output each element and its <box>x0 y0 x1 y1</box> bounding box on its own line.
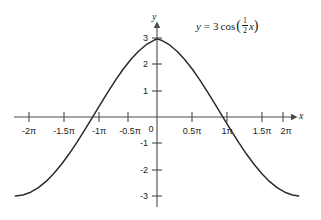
y-tick-label--3: -3 <box>131 191 148 201</box>
cosine-plot-svg <box>0 0 321 220</box>
x-tick-label-1.5pi: 1.5π <box>253 126 272 136</box>
x-tick-label--0.5pi: -0.5π <box>119 126 141 136</box>
y-tick-label-3: 3 <box>131 33 148 43</box>
equation-amplitude: 3 <box>213 20 219 32</box>
fraction-denominator: 2 <box>242 25 248 35</box>
y-tick-label-2: 2 <box>131 59 148 69</box>
equation-annotation: y = 3 cos ( 1 2 x ) <box>196 16 259 35</box>
x-tick-label-0.5pi: 0.5π <box>183 126 202 136</box>
y-tick-label--1: -1 <box>131 138 148 148</box>
x-tick-label--1.5pi: -1.5π <box>53 126 75 136</box>
y-tick-label-1: 1 <box>131 86 148 96</box>
trig-graph-figure: -2π -1.5π -1π -0.5π 0 0.5π 1π 1.5π 2π 3 … <box>0 0 321 220</box>
x-tick-label-2pi: 2π <box>280 126 291 136</box>
origin-label: 0 <box>148 124 153 134</box>
fraction-numerator: 1 <box>242 16 248 25</box>
y-axis-label: y <box>152 11 156 22</box>
x-tick-label--2pi: -2π <box>22 126 36 136</box>
x-axis-label: x <box>299 110 303 121</box>
x-tick-label--1pi: -1π <box>92 126 106 136</box>
equation-close-paren: ) <box>254 18 259 34</box>
equation-lhs: y <box>196 20 201 32</box>
equation-function: cos <box>221 20 236 32</box>
equation-equals: = <box>204 20 210 32</box>
equation-fraction: 1 2 <box>242 16 248 35</box>
y-tick-label--2: -2 <box>131 165 148 175</box>
x-tick-label-1pi: 1π <box>221 126 232 136</box>
equation-open-paren: ( <box>236 18 241 34</box>
